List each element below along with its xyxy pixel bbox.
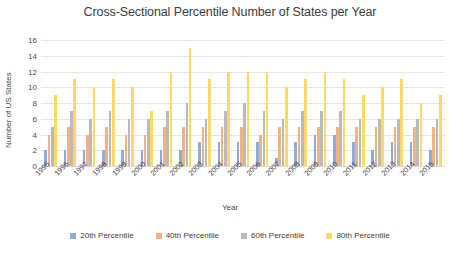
bar[interactable] (163, 127, 166, 166)
bar[interactable] (86, 135, 89, 167)
bar[interactable] (320, 111, 323, 166)
bar[interactable] (432, 127, 435, 166)
bar[interactable] (70, 111, 73, 166)
x-axis-tick-labels: 1995199619971998199920002001200220032004… (41, 166, 445, 204)
bar-group (41, 40, 60, 166)
bar-group (156, 40, 175, 166)
bar[interactable] (166, 111, 169, 166)
bar[interactable] (362, 95, 365, 166)
y-axis-tick: 10 (15, 83, 37, 92)
bar[interactable] (359, 119, 362, 166)
bar[interactable] (112, 79, 115, 166)
bar[interactable] (420, 103, 423, 166)
bar[interactable] (131, 87, 134, 166)
x-axis-title: Year (0, 203, 460, 212)
bar[interactable] (336, 127, 339, 166)
y-axis-tick-labels: 0246810121416 (13, 40, 37, 166)
bar[interactable] (436, 119, 439, 166)
chart-container: Cross-Sectional Percentile Number of Sta… (0, 0, 460, 258)
bar[interactable] (339, 111, 342, 166)
bar[interactable] (240, 127, 243, 166)
bar[interactable] (282, 119, 285, 166)
bar[interactable] (259, 135, 262, 167)
legend-item[interactable]: 40th Percentile (156, 231, 219, 240)
bar[interactable] (298, 127, 301, 166)
bar[interactable] (243, 103, 246, 166)
bar[interactable] (221, 127, 224, 166)
bar[interactable] (208, 79, 211, 166)
bar[interactable] (355, 127, 358, 166)
bar-group (176, 40, 195, 166)
bar[interactable] (400, 79, 403, 166)
bar[interactable] (247, 72, 250, 167)
y-axis-tick: 2 (15, 146, 37, 155)
legend-item[interactable]: 20th Percentile (70, 231, 133, 240)
x-axis-tick: 2015 (426, 166, 445, 204)
bar[interactable] (128, 119, 131, 166)
bar[interactable] (144, 135, 147, 167)
bar[interactable] (109, 111, 112, 166)
plot-area (41, 40, 445, 166)
bar-group (310, 40, 329, 166)
legend-swatch-icon (241, 233, 247, 239)
bar[interactable] (397, 119, 400, 166)
bar[interactable] (73, 79, 76, 166)
bar[interactable] (301, 111, 304, 166)
bar[interactable] (317, 127, 320, 166)
bar-group (272, 40, 291, 166)
bar-group (137, 40, 156, 166)
legend-label: 20th Percentile (80, 231, 133, 240)
legend-item[interactable]: 80th Percentile (326, 231, 389, 240)
bar[interactable] (304, 79, 307, 166)
bar[interactable] (150, 111, 153, 166)
bar[interactable] (89, 119, 92, 166)
y-axis-tick: 14 (15, 51, 37, 60)
bar[interactable] (416, 119, 419, 166)
bar[interactable] (170, 72, 173, 167)
legend-label: 60th Percentile (251, 231, 304, 240)
bar-group (99, 40, 118, 166)
legend-item[interactable]: 60th Percentile (241, 231, 304, 240)
bar[interactable] (263, 111, 266, 166)
bar[interactable] (278, 127, 281, 166)
bar[interactable] (182, 127, 185, 166)
bar[interactable] (48, 135, 51, 167)
bar-group (349, 40, 368, 166)
legend-swatch-icon (326, 233, 332, 239)
bar[interactable] (54, 95, 57, 166)
bar[interactable] (343, 79, 346, 166)
bar[interactable] (375, 127, 378, 166)
bar[interactable] (189, 48, 192, 166)
bar[interactable] (205, 119, 208, 166)
y-axis-tick: 16 (15, 36, 37, 45)
bar-group (253, 40, 272, 166)
bar-group (214, 40, 233, 166)
bar[interactable] (413, 127, 416, 166)
bar[interactable] (202, 127, 205, 166)
bar-group (233, 40, 252, 166)
bar-group (79, 40, 98, 166)
bar[interactable] (378, 119, 381, 166)
bar[interactable] (439, 95, 442, 166)
bar[interactable] (381, 87, 384, 166)
bar[interactable] (93, 87, 96, 166)
bar[interactable] (285, 87, 288, 166)
bar[interactable] (266, 72, 269, 167)
bar-group (330, 40, 349, 166)
legend-label: 80th Percentile (336, 231, 389, 240)
bar-group (118, 40, 137, 166)
bar[interactable] (224, 111, 227, 166)
bar[interactable] (227, 72, 230, 167)
bar[interactable] (324, 72, 327, 167)
y-axis-tick: 4 (15, 130, 37, 139)
bar[interactable] (105, 127, 108, 166)
bar[interactable] (186, 103, 189, 166)
bar-group (195, 40, 214, 166)
bar-group (368, 40, 387, 166)
bar[interactable] (394, 127, 397, 166)
y-axis-tick: 12 (15, 67, 37, 76)
bar[interactable] (51, 127, 54, 166)
legend-label: 40th Percentile (166, 231, 219, 240)
bar[interactable] (67, 127, 70, 166)
bar[interactable] (147, 119, 150, 166)
